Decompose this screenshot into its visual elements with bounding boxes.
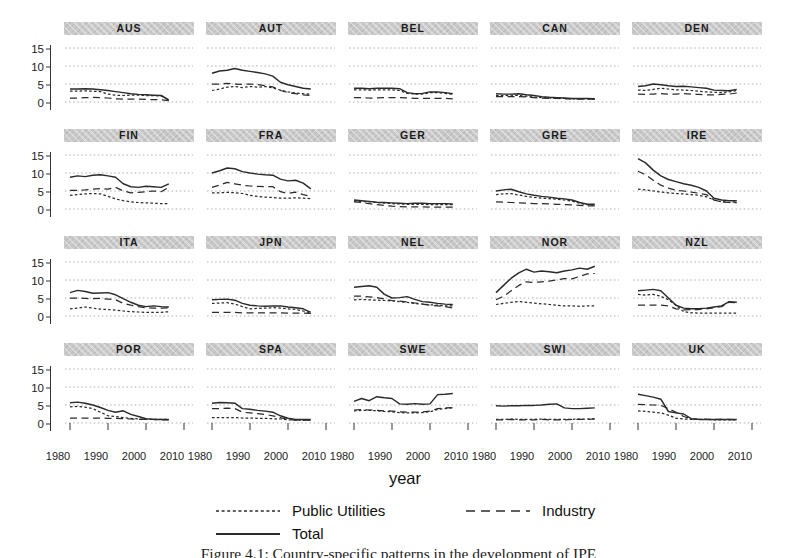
series-line-industry bbox=[638, 93, 737, 95]
series-line-total bbox=[354, 88, 453, 93]
small-multiples-grid: 051015AUSAUTBELCANDEN051015FINFRAGERGREI… bbox=[18, 22, 762, 542]
legend: Public UtilitiesIndustryTotal bbox=[216, 502, 762, 542]
series-line-industry bbox=[70, 97, 169, 100]
panel-plot bbox=[64, 250, 194, 326]
x-tick-label: 2010 bbox=[586, 450, 610, 462]
panel-title: AUS bbox=[64, 22, 194, 35]
country-panel-aus: AUS bbox=[64, 22, 194, 117]
country-panel-jpn: JPN bbox=[206, 236, 336, 331]
panel-title: POR bbox=[64, 343, 194, 356]
panel-row: 051015ITAJPNNELNORNZL bbox=[18, 236, 762, 331]
y-tick-label: 0 bbox=[38, 311, 44, 323]
panel-plot bbox=[206, 143, 336, 219]
legend-swatch-dotted bbox=[216, 506, 280, 516]
series-line-public-utilities bbox=[496, 302, 595, 307]
panel-row: 051015PORSPASWESWIUK bbox=[18, 343, 762, 438]
panel-title: BEL bbox=[348, 22, 478, 35]
y-tick-label: 0 bbox=[38, 418, 44, 430]
panel-title: GRE bbox=[490, 129, 620, 142]
panel-plot bbox=[490, 143, 620, 219]
series-line-total bbox=[354, 394, 453, 405]
series-line-industry bbox=[496, 419, 595, 420]
x-axis-title: year bbox=[48, 469, 762, 488]
panel-plot bbox=[348, 250, 478, 326]
x-tick-label: 2000 bbox=[122, 450, 146, 462]
x-tick-label: 1990 bbox=[652, 450, 676, 462]
legend-label: Public Utilities bbox=[292, 502, 385, 519]
panel-plot bbox=[348, 143, 478, 219]
country-panel-ita: ITA bbox=[64, 236, 194, 331]
x-axis-cell: 1980199020002010 bbox=[52, 450, 182, 465]
panel-plot bbox=[64, 143, 194, 219]
y-tick-label: 5 bbox=[38, 186, 44, 198]
y-axis: 051015 bbox=[18, 144, 52, 224]
panel-title: FRA bbox=[206, 129, 336, 142]
series-line-total bbox=[70, 175, 169, 188]
panel-title: IRE bbox=[632, 129, 762, 142]
series-line-total bbox=[212, 69, 311, 90]
x-tick-label: 1980 bbox=[188, 450, 212, 462]
legend-item-public-utilities: Public Utilities bbox=[216, 502, 466, 519]
x-tick-label: 2000 bbox=[690, 450, 714, 462]
series-line-industry bbox=[496, 274, 595, 300]
panel-title: NEL bbox=[348, 236, 478, 249]
panel-plot bbox=[348, 357, 478, 433]
panel-title: DEN bbox=[632, 22, 762, 35]
y-tick-label: 10 bbox=[31, 382, 44, 394]
panel-title: ITA bbox=[64, 236, 194, 249]
x-tick-label: 2000 bbox=[264, 450, 288, 462]
x-tick-label: 1990 bbox=[226, 450, 250, 462]
series-line-public-utilities bbox=[212, 87, 311, 95]
country-panel-nzl: NZL bbox=[632, 236, 762, 331]
panel-plot bbox=[64, 357, 194, 433]
panel-title: FIN bbox=[64, 129, 194, 142]
figure-page: 051015AUSAUTBELCANDEN051015FINFRAGERGREI… bbox=[0, 0, 797, 558]
series-line-industry bbox=[212, 83, 311, 95]
x-tick-label: 2010 bbox=[444, 450, 468, 462]
country-panel-ire: IRE bbox=[632, 129, 762, 224]
legend-label: Industry bbox=[542, 502, 595, 519]
panel-row: 051015FINFRAGERGREIRE bbox=[18, 129, 762, 224]
country-panel-swe: SWE bbox=[348, 343, 478, 438]
x-tick-label: 2000 bbox=[406, 450, 430, 462]
series-line-industry bbox=[212, 312, 311, 313]
y-tick-label: 15 bbox=[31, 257, 44, 269]
legend-item-total: Total bbox=[216, 525, 466, 542]
panel-plot bbox=[632, 143, 762, 219]
series-line-total bbox=[496, 266, 595, 292]
series-line-industry bbox=[354, 98, 453, 99]
x-tick-label: 1980 bbox=[330, 450, 354, 462]
y-tick-label: 15 bbox=[31, 43, 44, 55]
y-tick-label: 10 bbox=[31, 168, 44, 180]
panel-title: NZL bbox=[632, 236, 762, 249]
panel-plot bbox=[632, 250, 762, 326]
country-panel-aut: AUT bbox=[206, 22, 336, 117]
panel-title: AUT bbox=[206, 22, 336, 35]
series-line-industry bbox=[70, 187, 169, 192]
x-tick-label: 2010 bbox=[160, 450, 184, 462]
figure-caption: Figure 4.1: Country-specific patterns in… bbox=[0, 545, 797, 558]
y-tick-label: 5 bbox=[38, 293, 44, 305]
series-line-industry bbox=[638, 171, 737, 202]
panel-plot bbox=[206, 250, 336, 326]
series-line-public-utilities bbox=[70, 194, 169, 204]
panel-title: SPA bbox=[206, 343, 336, 356]
x-tick-label: 2010 bbox=[728, 450, 752, 462]
country-panel-ger: GER bbox=[348, 129, 478, 224]
x-axis-cell: 1980199020002010 bbox=[336, 450, 466, 465]
panel-plot bbox=[490, 250, 620, 326]
x-axis-labels: 1980199020002010198019902000201019801990… bbox=[18, 450, 762, 465]
series-line-total bbox=[638, 289, 737, 308]
y-tick-label: 15 bbox=[31, 364, 44, 376]
series-line-public-utilities bbox=[212, 192, 311, 198]
series-line-public-utilities bbox=[638, 411, 737, 420]
panel-title: SWI bbox=[490, 343, 620, 356]
country-panel-nel: NEL bbox=[348, 236, 478, 331]
panel-row: 051015AUSAUTBELCANDEN bbox=[18, 22, 762, 117]
x-tick-label: 2010 bbox=[302, 450, 326, 462]
panel-plot bbox=[64, 36, 194, 112]
panel-title: JPN bbox=[206, 236, 336, 249]
y-tick-label: 5 bbox=[38, 400, 44, 412]
x-axis-cell: 1980199020002010 bbox=[620, 450, 750, 465]
x-axis-cell: 1980199020002010 bbox=[194, 450, 324, 465]
